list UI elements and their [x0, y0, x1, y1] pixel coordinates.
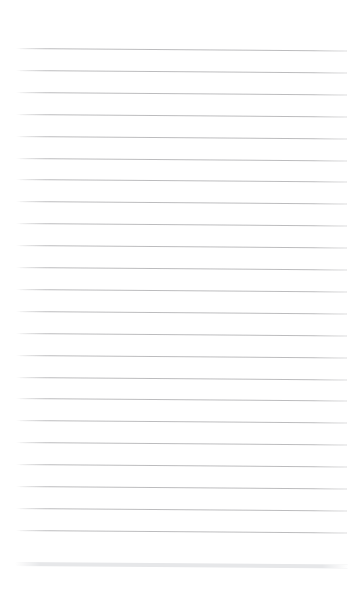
writing-line-zone[interactable]: [16, 291, 347, 311]
lined-paper-page: [0, 0, 362, 590]
writing-line-zone[interactable]: [16, 203, 347, 223]
ruled-line: [16, 530, 347, 533]
writing-line-zone[interactable]: [16, 160, 347, 180]
writing-line-zone[interactable]: [16, 357, 347, 377]
writing-line-zone[interactable]: [16, 313, 347, 333]
writing-line-zone[interactable]: [16, 181, 347, 201]
writing-line-zone[interactable]: [16, 444, 347, 464]
writing-line-zone[interactable]: [16, 466, 347, 486]
writing-line-zone[interactable]: [16, 335, 347, 355]
writing-line-zone[interactable]: [16, 94, 347, 114]
writing-line-zone[interactable]: [16, 488, 347, 508]
writing-line-zone[interactable]: [16, 116, 347, 136]
writing-line-zone[interactable]: [16, 28, 347, 48]
writing-line-zone[interactable]: [16, 138, 347, 158]
bottom-margin: [0, 568, 362, 590]
writing-line-zone[interactable]: [16, 269, 347, 289]
writing-line-zone[interactable]: [16, 379, 347, 399]
writing-line-zone[interactable]: [16, 50, 347, 70]
writing-line-zone[interactable]: [16, 510, 347, 530]
writing-line-zone[interactable]: [16, 225, 347, 245]
writing-line-zone[interactable]: [16, 400, 347, 420]
writing-line-zone[interactable]: [16, 247, 347, 267]
writing-line-zone[interactable]: [16, 422, 347, 442]
writing-line-zone[interactable]: [16, 72, 347, 92]
